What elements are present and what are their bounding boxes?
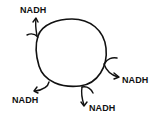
cycle-diagram: NADH NADH NADH NADH — [0, 0, 162, 118]
nadh-label-bottom: NADH — [89, 104, 115, 113]
nadh-label-top-left: NADH — [20, 6, 46, 15]
top-left-arrow — [36, 19, 37, 36]
right-branch-curve — [105, 58, 117, 63]
nadh-label-right: NADH — [122, 76, 148, 85]
nadh-label-bottom-left: NADH — [12, 96, 38, 105]
cycle-circle — [36, 19, 106, 86]
bottom-branch-curve — [82, 87, 93, 93]
